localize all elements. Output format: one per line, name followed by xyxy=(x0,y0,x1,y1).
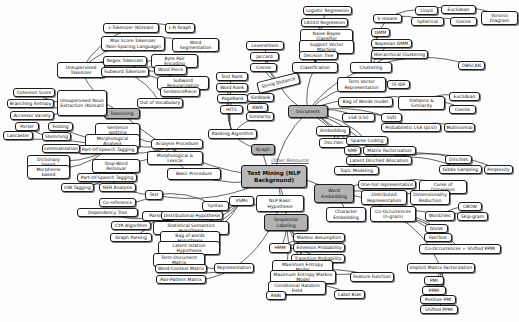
node-co-reference: Co-reference xyxy=(99,198,136,207)
node-tokenizing: Tokenizing xyxy=(104,108,140,119)
node-k-means: k-means xyxy=(373,14,402,23)
node-ner-analysis: NER Analysis xyxy=(99,183,136,192)
node-embedding: Embedding xyxy=(316,126,350,136)
node-jaccard: Jaccard xyxy=(250,52,279,61)
node-perplexity: Perplexity xyxy=(484,165,513,174)
node-positive-pmi: Positive PMI xyxy=(420,295,456,304)
node-svd: SVD xyxy=(381,113,402,122)
node-dirichlet: Dirichlet xyxy=(445,155,472,164)
node-dbscan: DBSCAN xyxy=(458,61,485,70)
node-graph-parsing: Graph Parsing xyxy=(110,233,152,242)
node-clustering: Clustering xyxy=(350,62,392,73)
node-implicit-mf: Implicit Matrix Factorization xyxy=(407,263,475,273)
node-euclidean-ds: Euclidean xyxy=(449,92,480,101)
node-shifted-ppmi: Shifted PPMI xyxy=(420,305,458,314)
mindmap-canvas: Text Mining (NLP Background)Other Resour… xyxy=(0,0,519,322)
node-spherical: Spherical xyxy=(411,17,444,26)
node-morpheme-based: Morpheme based xyxy=(27,165,70,179)
node-distributional-hypothesis: Distributional Hypothesis xyxy=(161,211,223,220)
node-sparse-coding: Sparse Coding xyxy=(346,136,388,145)
node-lasso-regression: LASSO Regression xyxy=(301,18,348,27)
node-stemming: Stemming xyxy=(42,132,71,141)
node-hmm: HMM xyxy=(269,243,291,253)
node-sequential-labeling: Sequential Labeling xyxy=(264,214,308,231)
node-similarity: Similarity xyxy=(246,112,274,121)
node-dependency-tree: Dependency Tree xyxy=(77,208,138,217)
node-multinomial: Multinomial xyxy=(444,123,475,132)
node-sentencepiece: SentencePiece xyxy=(160,87,200,97)
node-euclidean-km: Euclidean xyxy=(441,5,476,14)
node-branching-entropy: Branching Entropy xyxy=(7,99,54,108)
node-stop-word-removal: Stop-Word Removal xyxy=(92,159,140,173)
node-unsupervised-noun-extraction: Unsupervised Noun Extraction (Korean) xyxy=(57,90,107,116)
node-vsms: VSMs xyxy=(229,196,254,206)
node-nmf: NMF xyxy=(344,146,361,155)
node-nlp-basic-hypothesis: NLP Basic Hypothesis xyxy=(256,195,304,212)
node-representation: Representation xyxy=(214,263,254,273)
node-skip-gram: Skip-gram xyxy=(457,212,488,221)
node-regex-tokenizer: Regex Tokenizer xyxy=(103,56,147,66)
node-pos-tagging-1: Part-Of-Speech Tagging xyxy=(78,145,138,154)
node-l-tokenizer: L-Tokenizer (Korean) xyxy=(103,23,159,33)
node-distance-similarity: Distance & Similarity xyxy=(398,96,445,110)
node-voronoi-diagram: Voronoi Diagram xyxy=(481,11,518,25)
node-matrix-factorization: Matrix Factorization xyxy=(363,146,416,155)
node-markov-assumption: Markov Assumption xyxy=(293,233,345,242)
node-decision-tree: Decision Tree xyxy=(299,51,338,60)
node-iob-tagging: IOB Tagging xyxy=(61,183,94,192)
node-fasttext: FastText xyxy=(424,233,452,242)
node-ppmi: PPMI xyxy=(422,286,446,295)
node-ranking-algorithm: Ranking Algorithm xyxy=(208,129,257,139)
node-gmm: GMM xyxy=(371,28,390,37)
node-plsa: Probabilistic LSA (pLSI) xyxy=(381,123,441,132)
node-morphological-lexical: Morphological & Lexical xyxy=(147,151,203,165)
node-pair-pattern-matrix: Pair-Pattern Matrix xyxy=(156,275,206,284)
node-term-vector-representation: Term Vector Representation xyxy=(337,77,386,92)
node-co-occurrences: Co-Occurrences (n-gram) xyxy=(370,206,416,222)
node-hierarchical-clustering: Hierarchical Clustering xyxy=(371,50,428,59)
node-distributed-representation: Distributed Representation xyxy=(361,190,407,205)
node-simrank: SimRank xyxy=(247,93,274,102)
node-unsupervised-tokenizer: Unsupervised Tokenizer xyxy=(57,62,105,78)
node-gibbs-sampling: Gibbs Sampling xyxy=(439,165,482,174)
node-pos-tagging-2: Part-Of-Speech Tagging xyxy=(77,173,137,182)
node-character-embedding: Character Embedding xyxy=(326,207,366,222)
node-bag-of-words-model: Bag of Words model xyxy=(338,97,393,107)
node-cbow: CBOW xyxy=(458,202,482,211)
node-lr-graph: L-R Graph xyxy=(165,23,195,33)
node-feature-function: Feature Function xyxy=(350,272,394,282)
node-co-occ-shifted-ppmi: Co-Occurrences + Shifted PPMI xyxy=(419,244,501,254)
node-cosine-ds: Cosine xyxy=(449,105,476,114)
node-max-score-tokenizer: Max Score Tokenizer (Non-Spacing Languag… xyxy=(101,36,165,51)
node-cosine-sd: Cosine xyxy=(250,63,277,72)
node-word-segmentation: Word Segmentation xyxy=(172,38,219,52)
node-text-mining: Text Mining (NLP Background) xyxy=(241,165,307,188)
node-emission-probability: Emission Probability xyxy=(293,243,345,252)
node-cohesion-score: Cohesion Score xyxy=(13,88,55,97)
node-porter: Porter xyxy=(15,122,39,131)
node-document: Document xyxy=(288,105,328,118)
node-levenshtein: Levenshtein xyxy=(246,41,284,50)
node-tf-idf: TF-IDF xyxy=(387,80,410,89)
node-lemmatization: Lemmatization xyxy=(42,144,80,153)
node-rwr: RWR xyxy=(247,103,268,112)
node-syntax: Syntax xyxy=(202,201,229,211)
node-basic-procedure: Basic Procedure xyxy=(167,168,221,180)
node-analysis-procedure: Analysis Procedure xyxy=(151,139,203,149)
node-out-of-vocabulary: Out of Vocabulary xyxy=(137,98,183,108)
node-subword-tokenizer: Subword Tokenizer xyxy=(101,67,149,77)
node-hits: HITS xyxy=(220,105,243,114)
node-classification: Classification xyxy=(292,62,338,73)
node-pmi: PMI xyxy=(424,276,444,285)
node-accessor-variety: Accessor Variety xyxy=(10,111,54,120)
node-glove: GloVe xyxy=(425,224,448,233)
node-topic-modeling: Topic Modeling xyxy=(334,166,379,175)
node-other-resource[interactable]: Other Resource xyxy=(268,156,312,165)
node-bayesian-gmm: Bayesian GMM xyxy=(371,39,412,48)
node-word-rank: Word Rank xyxy=(216,83,248,92)
node-dimensionality-reduction: Dimensionality Reduction xyxy=(410,190,450,205)
node-logistic-regression: Logistic Regression xyxy=(303,6,352,15)
node-graph: Graph xyxy=(251,144,275,155)
node-word-context-matrix: Word-Context Matrix xyxy=(155,264,207,273)
node-lancaster: Lancaster xyxy=(3,131,33,140)
